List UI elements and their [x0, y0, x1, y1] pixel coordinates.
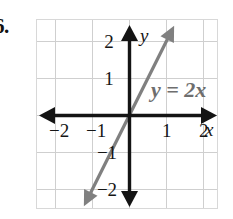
x-tick-label-neg2: −2: [49, 120, 69, 141]
problem-number-label: 6.: [0, 16, 9, 37]
coordinate-plane-svg: y x −2 −1 1 2 2 1 −1 −2 y = 2x: [37, 20, 218, 209]
function-line-arrow-up: [160, 22, 180, 43]
function-line-arrow-down: [77, 189, 97, 209]
x-tick-label-2: 2: [199, 120, 209, 141]
x-tick-label-1: 1: [162, 120, 172, 141]
y-tick-label-1: 1: [104, 68, 114, 89]
y-tick-label-neg2: −2: [97, 179, 117, 200]
graph-figure: 6.: [0, 0, 233, 219]
y-axis-name: y: [138, 25, 149, 46]
equation-label: y = 2x: [148, 77, 206, 102]
y-tick-label-neg1: −1: [97, 142, 117, 163]
coordinate-plane: y x −2 −1 1 2 2 1 −1 −2 y = 2x: [36, 19, 218, 209]
y-axis-arrow-up: [121, 25, 138, 41]
y-axis-arrow-down: [121, 191, 138, 207]
y-tick-label-2: 2: [104, 31, 114, 52]
x-tick-label-neg1: −1: [86, 120, 106, 141]
